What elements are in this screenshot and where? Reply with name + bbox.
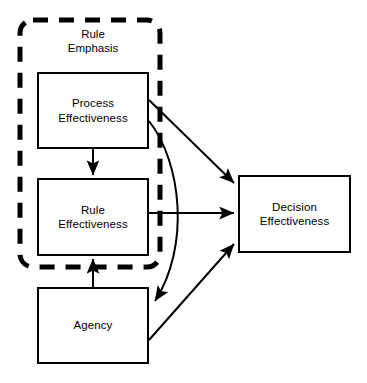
node-decision-effectiveness[interactable]: Decision Effectiveness xyxy=(238,175,351,253)
edge-agency-to-decision xyxy=(149,244,234,340)
diagram-canvas: Rule Emphasis Process Effectiveness Rule… xyxy=(0,0,367,383)
edge-process-to-agency xyxy=(149,121,178,301)
node-rule-effectiveness-label: Rule Effectiveness xyxy=(55,203,131,231)
node-process-effectiveness-label: Process Effectiveness xyxy=(55,96,131,124)
node-agency[interactable]: Agency xyxy=(37,287,149,364)
node-agency-label: Agency xyxy=(71,318,116,332)
node-rule-effectiveness[interactable]: Rule Effectiveness xyxy=(37,178,149,256)
node-process-effectiveness[interactable]: Process Effectiveness xyxy=(37,72,149,149)
node-decision-effectiveness-label: Decision Effectiveness xyxy=(257,200,333,228)
rule-emphasis-group-label: Rule Emphasis xyxy=(38,27,148,55)
